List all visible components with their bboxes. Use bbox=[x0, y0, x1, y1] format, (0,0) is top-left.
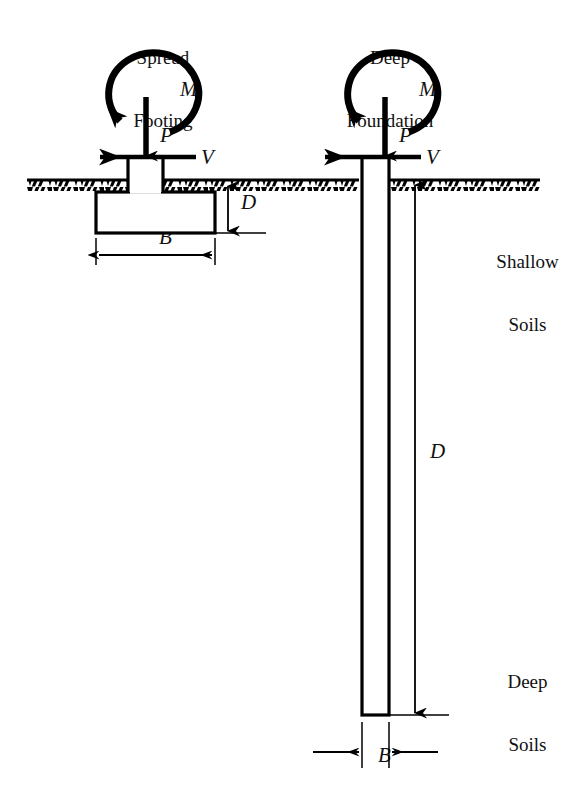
moment-arc-path-deep bbox=[348, 53, 438, 132]
spread-footing-pad bbox=[96, 192, 215, 233]
moment-arc-spread bbox=[109, 53, 199, 132]
deep-foundation-shaft bbox=[362, 157, 389, 715]
width-dimension-deep bbox=[313, 722, 438, 768]
depth-dimension-deep bbox=[389, 185, 449, 715]
ground-hatch-left bbox=[27, 180, 128, 191]
figure-canvas: Spread Footing Deep Foundation Shallow S… bbox=[0, 0, 581, 787]
foundation-diagram bbox=[0, 0, 581, 787]
depth-dimension-spread bbox=[215, 186, 266, 233]
ground-hatch-right bbox=[389, 180, 540, 191]
width-dimension-spread bbox=[96, 238, 215, 265]
deep-foundation-structure bbox=[362, 157, 389, 715]
spread-footing-column bbox=[128, 157, 163, 192]
moment-arc-deep bbox=[348, 53, 438, 132]
ground-surface bbox=[27, 180, 540, 191]
spread-footing-structure bbox=[96, 157, 215, 233]
ground-hatch-middle bbox=[163, 180, 359, 191]
moment-arc-path-spread bbox=[109, 53, 199, 132]
